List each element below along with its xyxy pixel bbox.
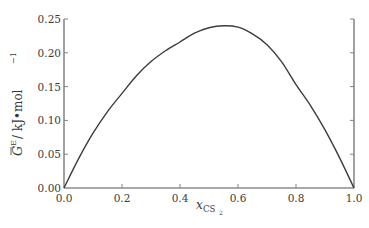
- y-tick-label: 0.10: [38, 114, 61, 126]
- x-tick-label: 0.4: [172, 192, 189, 204]
- y-tick-label: 0.15: [38, 81, 61, 93]
- x-tick-label: 0.8: [288, 192, 305, 204]
- y-axis-ticks: 0.000.050.100.150.200.25: [38, 13, 354, 194]
- y-tick-label: 0.05: [38, 148, 61, 160]
- y-axis-label-sup: E: [9, 140, 18, 146]
- x-tick-label: 1.0: [346, 192, 363, 204]
- y-axis-label-unit-sup: −1: [9, 52, 18, 64]
- y-tick-label: 0.25: [38, 13, 61, 25]
- excess-gibbs-curve: [64, 26, 354, 188]
- x-axis-label-subsub: 2: [219, 209, 223, 216]
- y-axis-label-main: G: [10, 146, 25, 156]
- y-axis-label-unit: / kJ•mol: [11, 89, 25, 139]
- y-axis-label: G E / kJ•mol −1: [9, 52, 25, 156]
- y-tick-label: 0.20: [38, 47, 61, 59]
- x-axis-label-sub: CS: [203, 204, 216, 214]
- x-tick-label: 0.6: [230, 192, 247, 204]
- x-axis-ticks: 0.00.20.40.60.81.0: [56, 184, 363, 204]
- x-tick-label: 0.2: [114, 192, 131, 204]
- excess-gibbs-chart: 0.00.20.40.60.81.0 0.000.050.100.150.200…: [0, 0, 369, 228]
- y-tick-label: 0.00: [38, 182, 61, 194]
- x-axis-label: x CS 2: [196, 198, 223, 216]
- x-axis-label-main: x: [196, 198, 203, 212]
- plot-frame: [64, 19, 354, 188]
